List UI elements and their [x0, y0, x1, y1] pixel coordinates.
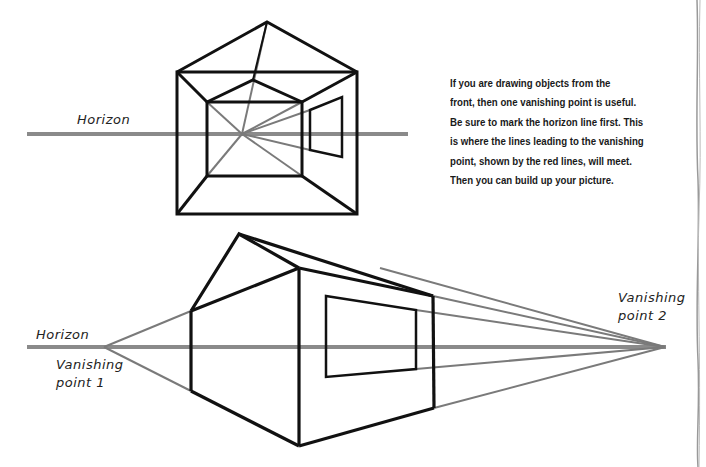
horizon-label-bottom: Horizon — [36, 326, 89, 344]
caption-line: If you are drawing objects from the — [450, 74, 618, 93]
two-point-perspective — [27, 234, 666, 446]
vp1-label-line: Vanishing — [56, 356, 124, 374]
vanishing-point-1-label: Vanishing point 1 — [56, 356, 124, 392]
vp2-label-line: point 2 — [618, 307, 686, 325]
caption-line: is where the lines leading to the vanish… — [450, 132, 618, 151]
vanishing-point-2-label: Vanishing point 2 — [618, 289, 686, 325]
diagram-graphics — [0, 0, 706, 467]
caption-line: front, then one vanishing point is usefu… — [450, 93, 618, 112]
vp2-label-line: Vanishing — [618, 289, 686, 307]
caption-text: If you are drawing objects from the fron… — [450, 74, 618, 190]
horizon-label-top: Horizon — [77, 111, 130, 129]
caption-line: Be sure to mark the horizon line first. … — [450, 113, 618, 132]
caption-line: Then you can build up your picture. — [450, 171, 618, 190]
perspective-diagram: Horizon If you are drawing objects from … — [0, 0, 706, 467]
caption-line: point, shown by the red lines, will meet… — [450, 152, 618, 171]
vp1-label-line: point 1 — [56, 374, 124, 392]
